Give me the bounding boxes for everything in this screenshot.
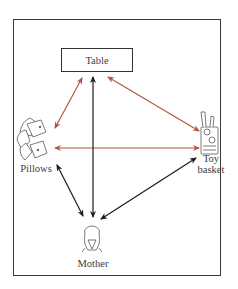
table-node: Table [61, 48, 133, 72]
arrow-toy-basket-mother [101, 158, 196, 219]
pillows-label: Pillows [14, 163, 58, 174]
arrow-table-toy-basket [108, 77, 199, 131]
toy-basket-label: Toy basket [196, 153, 226, 175]
mother-label: Mother [72, 258, 114, 269]
arrows-layer [0, 0, 238, 289]
pillows-icon [17, 118, 47, 160]
toy-basket-label-line1: Toy [196, 153, 226, 164]
mother-icon [82, 226, 102, 252]
arrow-table-pillows [55, 78, 82, 128]
arrow-pillows-mother [57, 165, 83, 216]
table-label: Table [85, 55, 108, 66]
toy-basket-icon [201, 112, 218, 154]
toy-basket-label-line2: basket [196, 164, 226, 175]
